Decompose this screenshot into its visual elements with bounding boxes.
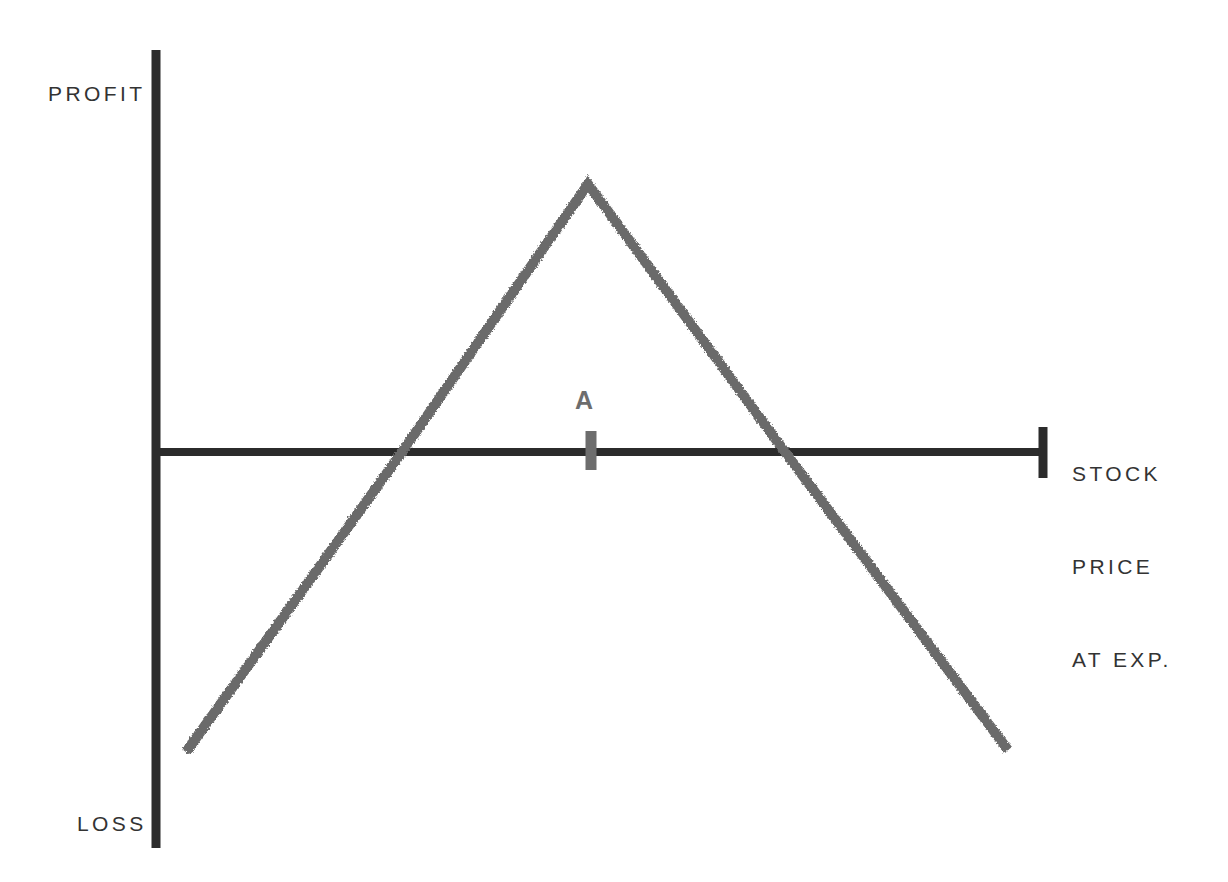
chart-canvas — [0, 0, 1228, 882]
strike-a-label: A — [575, 386, 594, 415]
x-axis-label-line-2: PRICE — [1072, 551, 1172, 582]
y-axis-label-loss: LOSS — [77, 808, 147, 839]
payoff-line — [186, 184, 1008, 752]
y-axis-label-profit: PROFIT — [48, 78, 145, 109]
x-axis-label-line-1: STOCK — [1072, 458, 1172, 489]
x-axis-label: STOCK PRICE AT EXP. — [1072, 396, 1172, 737]
payoff-diagram: PROFIT LOSS STOCK PRICE AT EXP. A — [0, 0, 1228, 882]
x-axis-label-line-3: AT EXP. — [1072, 644, 1172, 675]
